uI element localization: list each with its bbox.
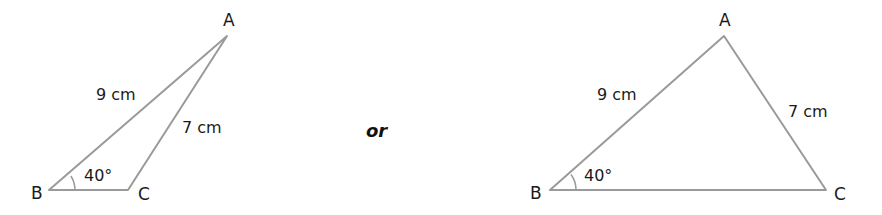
angle-b-left: 40° [84, 166, 112, 185]
side-ab-left: 9 cm [96, 85, 136, 104]
vertex-c-left: C [138, 184, 150, 204]
vertex-b-right: B [530, 183, 542, 203]
connector-or: or [366, 120, 388, 141]
triangle-right: A B C 9 cm 7 cm 40° [530, 10, 846, 204]
vertex-b-left: B [31, 183, 43, 203]
angle-b-right: 40° [584, 166, 612, 185]
triangle-left-shape [49, 36, 227, 190]
side-ac-right: 7 cm [788, 102, 828, 121]
side-ab-right: 9 cm [597, 85, 637, 104]
angle-arc-right [571, 175, 576, 191]
vertex-a-left: A [223, 10, 235, 30]
vertex-c-right: C [834, 184, 846, 204]
angle-arc-left [71, 176, 75, 190]
side-ac-left: 7 cm [182, 118, 222, 137]
triangle-left: A B C 9 cm 7 cm 40° [31, 10, 235, 204]
triangle-diagram: A B C 9 cm 7 cm 40° or A B C 9 cm 7 cm 4… [0, 0, 882, 215]
vertex-a-right: A [719, 10, 731, 30]
